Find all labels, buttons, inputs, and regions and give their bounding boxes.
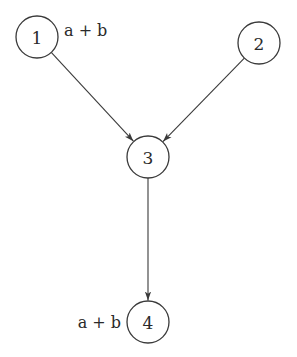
node-annotation: a + b	[78, 313, 121, 332]
node-2: 2	[238, 22, 280, 64]
node-label: 2	[254, 34, 265, 54]
node-label: 1	[32, 28, 43, 48]
edge-1-to-3	[51, 52, 133, 141]
node-annotation: a + b	[64, 21, 107, 40]
node-label: 4	[143, 313, 154, 333]
graph-canvas: 1a + b234a + b	[0, 0, 297, 357]
node-1: 1a + b	[16, 16, 107, 58]
node-3: 3	[127, 136, 169, 178]
node-4: 4a + b	[78, 301, 169, 343]
edge-2-to-3	[163, 58, 244, 142]
node-label: 3	[143, 148, 154, 168]
